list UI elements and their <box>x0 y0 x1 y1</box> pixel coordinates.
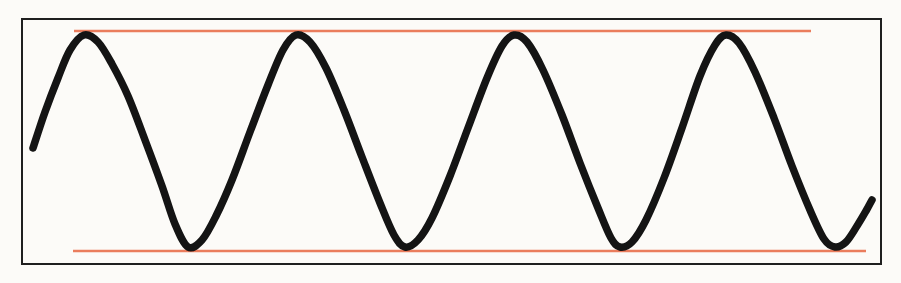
plot-border <box>22 19 881 264</box>
plot-canvas <box>0 0 901 283</box>
sine-wave-trace <box>33 35 872 248</box>
sine-wave-figure: Sine wave with upper and lower amplitude… <box>0 0 901 283</box>
